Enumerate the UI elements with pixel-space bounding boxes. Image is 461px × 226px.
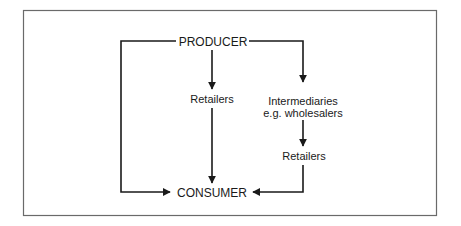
node-producer: PRODUCER: [179, 35, 248, 49]
node-intermediaries-line1: Intermediaries: [268, 95, 338, 107]
node-consumer: CONSUMER: [177, 186, 247, 200]
node-intermediaries-line2: e.g. wholesalers: [263, 107, 343, 119]
edge-retailers-consumer-indirect: [253, 165, 303, 192]
edge-producer-consumer-direct: [121, 41, 176, 192]
distribution-channels-diagram: PRODUCER Retailers Intermediaries e.g. w…: [0, 0, 461, 226]
edge-producer-intermediaries: [249, 41, 303, 82]
node-retailers-direct: Retailers: [190, 93, 234, 105]
node-retailers-indirect: Retailers: [282, 150, 326, 162]
